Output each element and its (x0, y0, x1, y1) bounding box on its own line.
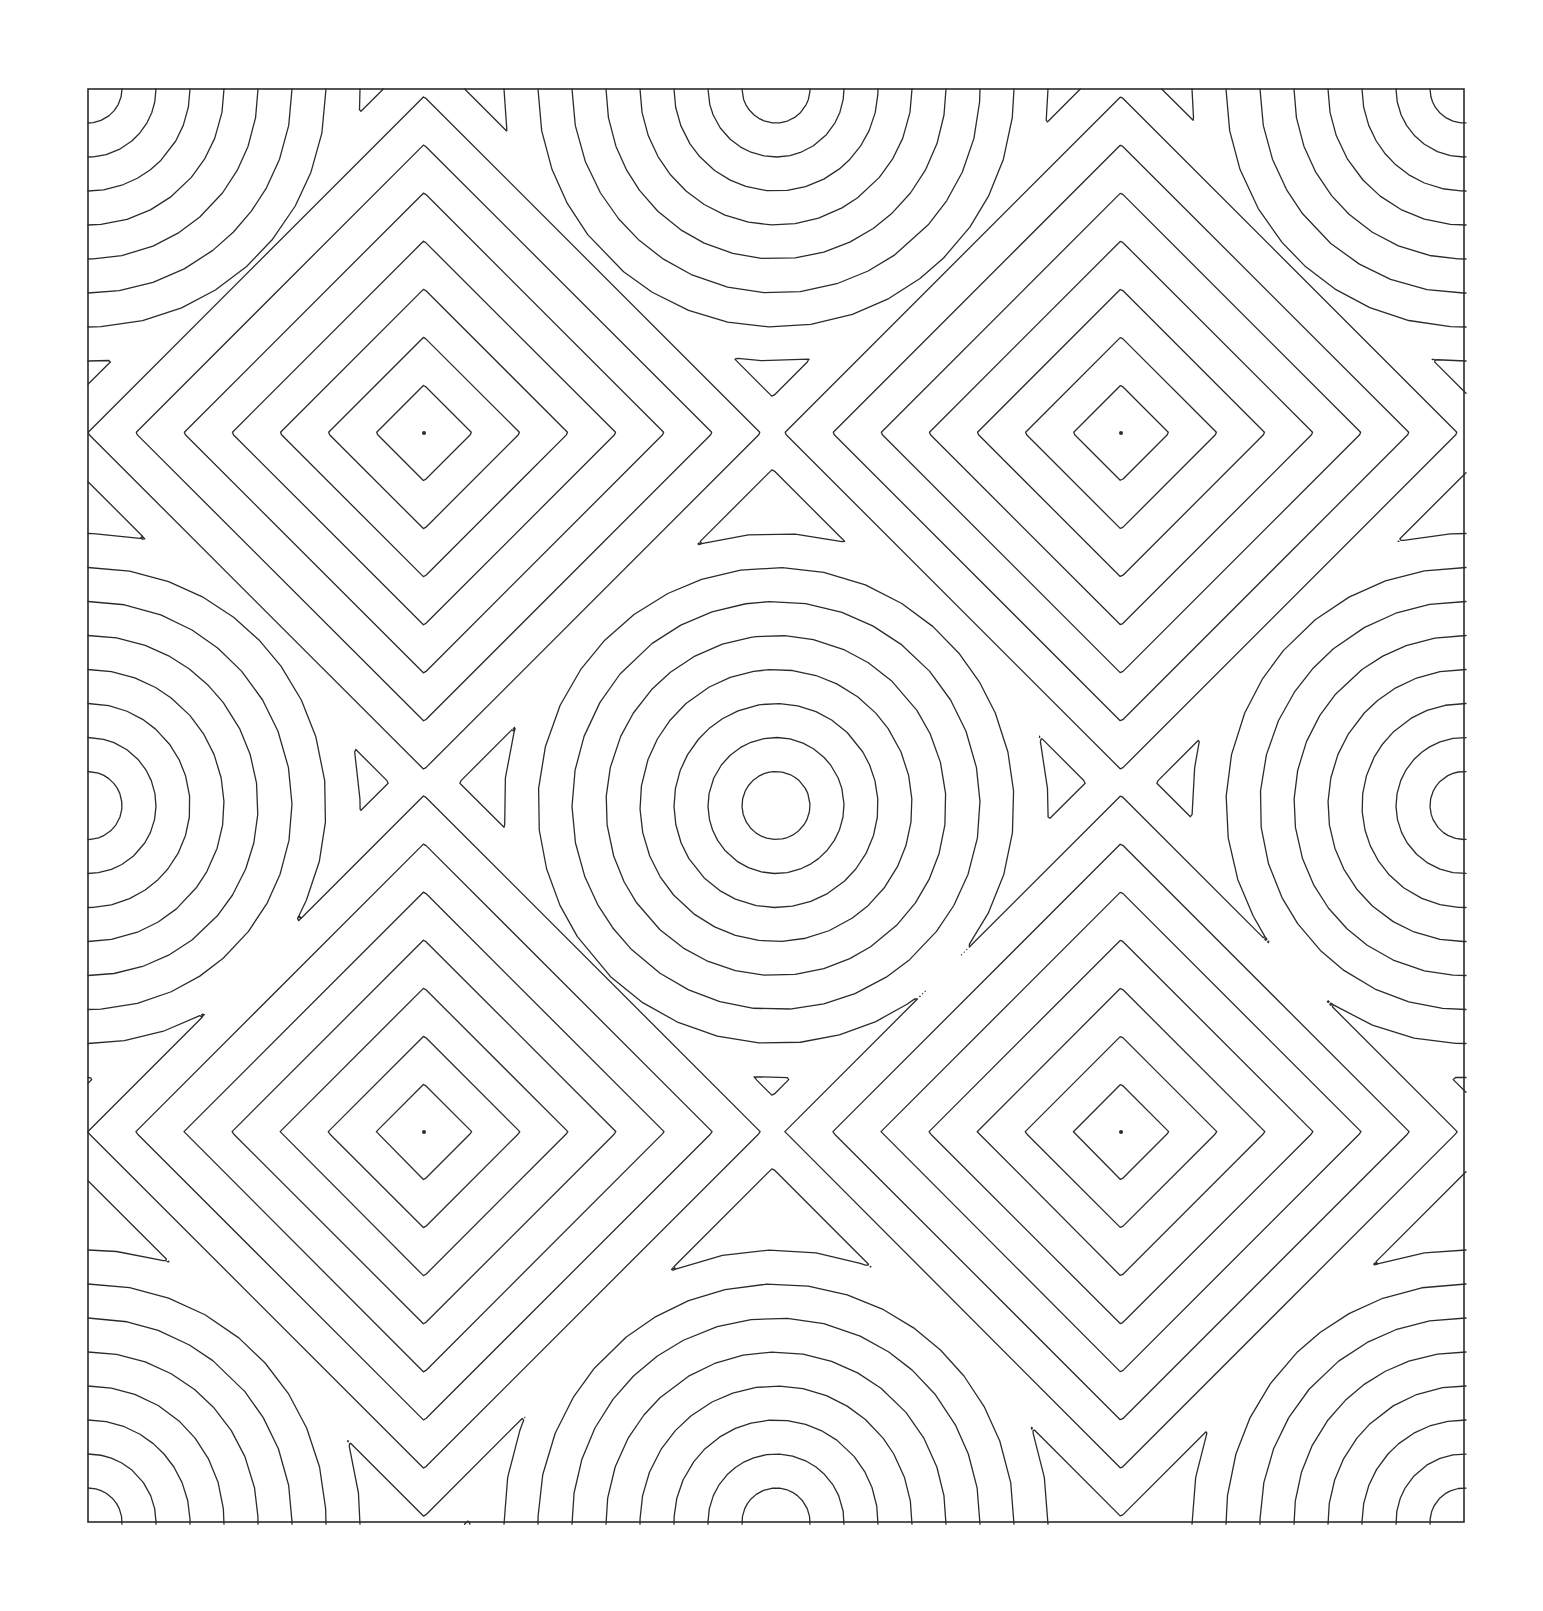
contour-line (167, 1261, 169, 1262)
canvas-background (0, 0, 1543, 1611)
figure-root (0, 0, 1543, 1611)
contour-line (1031, 1427, 1032, 1429)
pattern-center-dot (1119, 1130, 1123, 1134)
pattern-center-dot (422, 431, 426, 435)
contour-line (1268, 941, 1269, 942)
contour-line (1374, 1263, 1378, 1265)
contour-line (698, 543, 701, 545)
contour-line (348, 1441, 349, 1442)
pattern-center-dot (1119, 431, 1123, 435)
contour-line (1327, 1001, 1329, 1002)
pattern-center-dot (422, 1130, 426, 1134)
contour-pattern-svg (0, 0, 1543, 1611)
